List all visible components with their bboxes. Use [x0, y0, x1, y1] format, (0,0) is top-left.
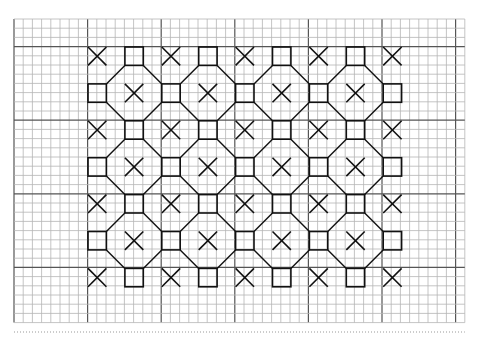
square-stitch-icon	[199, 121, 217, 139]
cross-stitch-icon	[309, 121, 327, 139]
diagonal-link	[106, 139, 125, 158]
diagonal-link	[365, 139, 384, 158]
square-stitch-icon	[346, 195, 364, 213]
diagonal-link	[106, 213, 125, 232]
diagonal-link	[254, 213, 273, 232]
diagonal-link	[143, 213, 162, 232]
diagonal-link	[217, 102, 236, 121]
square-stitch-icon	[346, 121, 364, 139]
diagonal-link	[365, 65, 384, 84]
cross-stitch-icon	[383, 47, 401, 65]
diagonal-link	[106, 102, 125, 121]
diagonal-link	[254, 102, 273, 121]
diagonal-link	[328, 102, 347, 121]
diagonal-link	[143, 250, 162, 269]
square-stitch-icon	[236, 84, 254, 102]
cross-stitch-icon	[125, 232, 143, 250]
diagonal-link	[291, 250, 310, 269]
diagonal-link	[328, 139, 347, 158]
diagonal-link	[365, 213, 384, 232]
diagonal-link	[180, 176, 199, 195]
diagonal-link	[217, 65, 236, 84]
cross-stitch-icon	[199, 232, 217, 250]
diagonal-link	[291, 102, 310, 121]
square-stitch-icon	[273, 121, 291, 139]
diagonal-link	[291, 176, 310, 195]
diagonal-link	[328, 176, 347, 195]
diagonal-link	[328, 213, 347, 232]
cross-stitch-icon	[125, 158, 143, 176]
diagonal-link	[328, 250, 347, 269]
cross-stitch-icon	[346, 158, 364, 176]
cross-stitch-icon	[236, 47, 254, 65]
diagonal-link	[106, 250, 125, 269]
diagonal-link	[180, 102, 199, 121]
diagonal-link	[365, 176, 384, 195]
cross-stitch-icon	[236, 195, 254, 213]
square-stitch-icon	[383, 84, 401, 102]
cross-stitch-icon	[125, 84, 143, 102]
square-stitch-icon	[125, 195, 143, 213]
cross-stitch-icon	[199, 84, 217, 102]
cross-stitch-icon	[273, 84, 291, 102]
cross-stitch-icon	[309, 268, 327, 286]
diagonal-link	[106, 65, 125, 84]
cross-stitch-icon	[309, 195, 327, 213]
square-stitch-icon	[199, 47, 217, 65]
diagonal-link	[291, 139, 310, 158]
diagonal-link	[217, 176, 236, 195]
cross-stitch-icon	[273, 158, 291, 176]
square-stitch-icon	[273, 268, 291, 286]
cross-stitch-icon	[162, 47, 180, 65]
cross-stitch-icon	[162, 121, 180, 139]
diagonal-link	[328, 65, 347, 84]
cross-stitch-icon	[236, 268, 254, 286]
square-stitch-icon	[346, 47, 364, 65]
square-stitch-icon	[162, 232, 180, 250]
diagonal-link	[365, 102, 384, 121]
square-stitch-icon	[309, 158, 327, 176]
diagonal-link	[365, 250, 384, 269]
square-stitch-icon	[273, 47, 291, 65]
square-stitch-icon	[236, 232, 254, 250]
cross-stitch-icon	[273, 232, 291, 250]
pattern-diagram	[0, 0, 487, 340]
diagonal-link	[254, 176, 273, 195]
square-stitch-icon	[309, 84, 327, 102]
square-stitch-icon	[383, 232, 401, 250]
square-stitch-icon	[346, 268, 364, 286]
diagonal-link	[254, 65, 273, 84]
diagonal-link	[180, 213, 199, 232]
cross-stitch-icon	[383, 268, 401, 286]
diagonal-link	[106, 176, 125, 195]
square-stitch-icon	[125, 268, 143, 286]
cross-stitch-icon	[346, 84, 364, 102]
diagonal-link	[180, 139, 199, 158]
cross-stitch-icon	[236, 121, 254, 139]
square-stitch-icon	[309, 232, 327, 250]
square-stitch-icon	[125, 47, 143, 65]
cross-stitch-icon	[309, 47, 327, 65]
cross-stitch-icon	[346, 232, 364, 250]
diagonal-link	[217, 250, 236, 269]
square-stitch-icon	[236, 158, 254, 176]
square-stitch-icon	[199, 195, 217, 213]
cross-stitch-icon	[383, 121, 401, 139]
diagonal-link	[217, 213, 236, 232]
cross-stitch-icon	[162, 195, 180, 213]
diagonal-link	[254, 250, 273, 269]
square-stitch-icon	[162, 158, 180, 176]
square-stitch-icon	[125, 121, 143, 139]
diagonal-link	[180, 250, 199, 269]
square-stitch-icon	[273, 195, 291, 213]
square-stitch-icon	[162, 84, 180, 102]
graph-paper-grid	[14, 19, 465, 323]
diagonal-link	[143, 102, 162, 121]
square-stitch-icon	[383, 158, 401, 176]
cross-stitch-icon	[162, 268, 180, 286]
square-stitch-icon	[199, 268, 217, 286]
diagonal-link	[143, 65, 162, 84]
diagonal-links	[106, 65, 383, 268]
diagonal-link	[180, 65, 199, 84]
diagonal-link	[254, 139, 273, 158]
